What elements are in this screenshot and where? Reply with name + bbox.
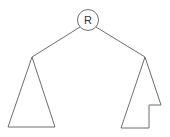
root-node-label: R (84, 14, 92, 26)
tree-diagram: R (0, 0, 170, 137)
edge-root-right (96, 27, 145, 57)
right-subtree-notched-triangle (121, 57, 161, 128)
edge-root-left (32, 27, 80, 57)
left-subtree-triangle (8, 57, 55, 127)
